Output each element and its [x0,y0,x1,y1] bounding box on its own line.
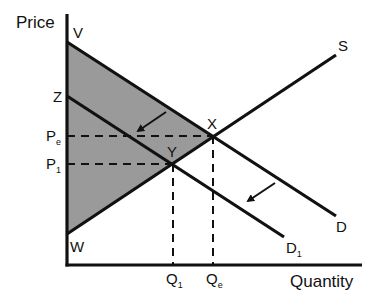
price-p1-label: P1 [46,155,61,175]
point-z-label: Z [53,88,62,105]
supply-demand-diagram: Price Quantity V Z W X Y S D D1 Pe P1 Q1… [0,0,376,307]
point-y-label: Y [167,143,177,160]
price-pe-label: Pe [46,127,61,147]
curve-d-label: D [336,218,347,235]
quantity-q1-label: Q1 [166,270,183,290]
point-v-label: V [73,24,83,41]
pe-main: P [46,127,56,144]
curve-d1-sub: 1 [297,249,302,259]
point-w-label: W [70,238,85,255]
qe-sub: e [218,280,223,290]
quantity-qe-label: Qe [206,270,223,290]
pe-sub: e [56,137,61,147]
shift-arrow-icon [248,183,275,201]
q1-sub: 1 [178,280,183,290]
curve-s-label: S [338,37,348,54]
qe-main: Q [206,270,218,287]
curve-d1-label: D1 [286,239,302,259]
x-axis-title: Quantity [290,272,354,291]
p1-main: P [46,155,56,172]
q1-main: Q [166,270,178,287]
p1-sub: 1 [56,165,61,175]
point-x-label: X [207,115,217,132]
curve-d1-main: D [286,239,297,256]
shaded-region [67,42,213,234]
y-axis-title: Price [16,13,55,32]
